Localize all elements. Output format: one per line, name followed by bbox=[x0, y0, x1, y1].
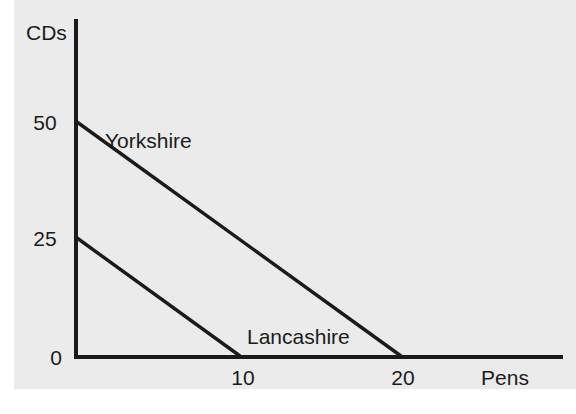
y-tick-label-25: 25 bbox=[33, 227, 56, 250]
x-tick-label-20: 20 bbox=[391, 366, 414, 389]
chart-canvas: CDs 50 25 0 10 20 Pens Yorkshire Lancash… bbox=[0, 0, 576, 414]
series-label-yorkshire: Yorkshire bbox=[105, 129, 192, 152]
series-line-yorkshire bbox=[77, 122, 401, 356]
y-tick-label-50: 50 bbox=[33, 111, 56, 134]
series-label-lancashire: Lancashire bbox=[247, 325, 350, 348]
series-line-lancashire bbox=[77, 238, 240, 356]
y-axis-title: CDs bbox=[26, 21, 67, 44]
y-tick-label-0: 0 bbox=[50, 346, 62, 369]
x-tick-label-10: 10 bbox=[231, 366, 254, 389]
chart-figure: CDs 50 25 0 10 20 Pens Yorkshire Lancash… bbox=[0, 0, 576, 414]
x-axis-title: Pens bbox=[481, 366, 529, 389]
